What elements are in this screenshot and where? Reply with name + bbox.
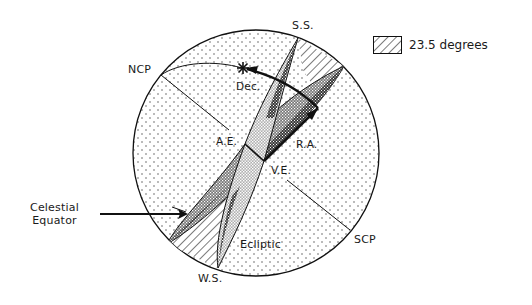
label-right-ascension: R.A. xyxy=(296,138,317,150)
label-ncp: NCP xyxy=(128,64,151,76)
legend-label: 23.5 degrees xyxy=(409,38,488,52)
label-scp: SCP xyxy=(354,234,376,246)
star-icon xyxy=(237,62,249,74)
label-declination: Dec. xyxy=(236,80,260,92)
label-celestial-equator: Celestial Equator xyxy=(30,201,79,227)
label-winter-solstice: W.S. xyxy=(198,273,222,285)
label-autumnal-equinox: A.E. xyxy=(216,135,237,147)
label-celestial-equator-line1: Celestial xyxy=(30,201,79,214)
label-celestial-equator-line2: Equator xyxy=(30,214,79,227)
legend: 23.5 degrees xyxy=(373,36,488,54)
legend-hatch-swatch xyxy=(373,36,402,54)
label-ecliptic: Ecliptic xyxy=(240,239,281,251)
label-vernal-equinox: V.E. xyxy=(271,164,291,176)
label-summer-solstice: S.S. xyxy=(292,20,314,32)
